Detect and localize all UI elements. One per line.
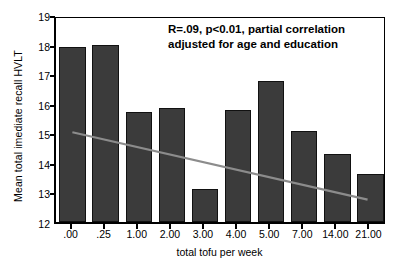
bar-.25 — [92, 45, 118, 222]
y-tick-mark-13 — [50, 193, 55, 195]
statistics-annotation: R=.09, p<0.01, partial correlation adjus… — [168, 22, 380, 51]
x-tick-label-7.00: 7.00 — [292, 228, 312, 240]
y-tick-label-13: 13 — [10, 188, 50, 200]
x-tick-mark-3.00 — [202, 224, 204, 229]
x-tick-mark-7.00 — [301, 224, 303, 229]
y-tick-mark-14 — [50, 164, 55, 166]
x-tick-mark-.25 — [103, 224, 105, 229]
y-tick-label-18: 18 — [10, 41, 50, 53]
x-tick-label-.25: .25 — [96, 228, 111, 240]
x-tick-mark-4.00 — [235, 224, 237, 229]
y-tick-label-17: 17 — [10, 70, 50, 82]
y-tick-mark-19 — [50, 16, 55, 18]
chart-figure: Mean total imediate recall HVLT 12131415… — [0, 0, 405, 270]
bar-14.00 — [324, 154, 350, 222]
bar-1.00 — [126, 112, 152, 222]
y-tick-mark-15 — [50, 134, 55, 136]
x-tick-label-5.00: 5.00 — [259, 228, 279, 240]
y-tick-mark-18 — [50, 46, 55, 48]
x-tick-label-2.00: 2.00 — [160, 228, 180, 240]
x-axis-title: total tofu per week — [54, 246, 385, 258]
bar-3.00 — [192, 189, 218, 222]
y-tick-mark-17 — [50, 75, 55, 77]
bar-2.00 — [159, 108, 185, 222]
x-tick-mark-14.00 — [334, 224, 336, 229]
bar-7.00 — [291, 131, 317, 222]
x-tick-label-3.00: 3.00 — [193, 228, 213, 240]
y-tick-mark-16 — [50, 105, 55, 107]
bar-21.00 — [357, 174, 383, 222]
x-tick-mark-5.00 — [268, 224, 270, 229]
x-tick-mark-.00 — [70, 224, 72, 229]
x-tick-mark-1.00 — [136, 224, 138, 229]
y-tick-label-12: 12 — [10, 218, 50, 230]
bar-4.00 — [225, 110, 251, 222]
y-tick-label-16: 16 — [10, 100, 50, 112]
x-tick-label-1.00: 1.00 — [127, 228, 147, 240]
y-tick-label-14: 14 — [10, 159, 50, 171]
bar-.00 — [59, 47, 85, 222]
bar-5.00 — [258, 81, 284, 222]
x-tick-mark-2.00 — [169, 224, 171, 229]
y-tick-label-15: 15 — [10, 129, 50, 141]
y-tick-label-19: 19 — [10, 11, 50, 23]
x-tick-mark-21.00 — [367, 224, 369, 229]
x-tick-label-.00: .00 — [63, 228, 78, 240]
x-tick-label-14.00: 14.00 — [322, 228, 348, 240]
x-tick-label-21.00: 21.00 — [355, 228, 381, 240]
annotation-line-2: adjusted for age and education — [168, 37, 380, 52]
x-tick-label-4.00: 4.00 — [226, 228, 246, 240]
annotation-line-1: R=.09, p<0.01, partial correlation — [168, 22, 380, 37]
